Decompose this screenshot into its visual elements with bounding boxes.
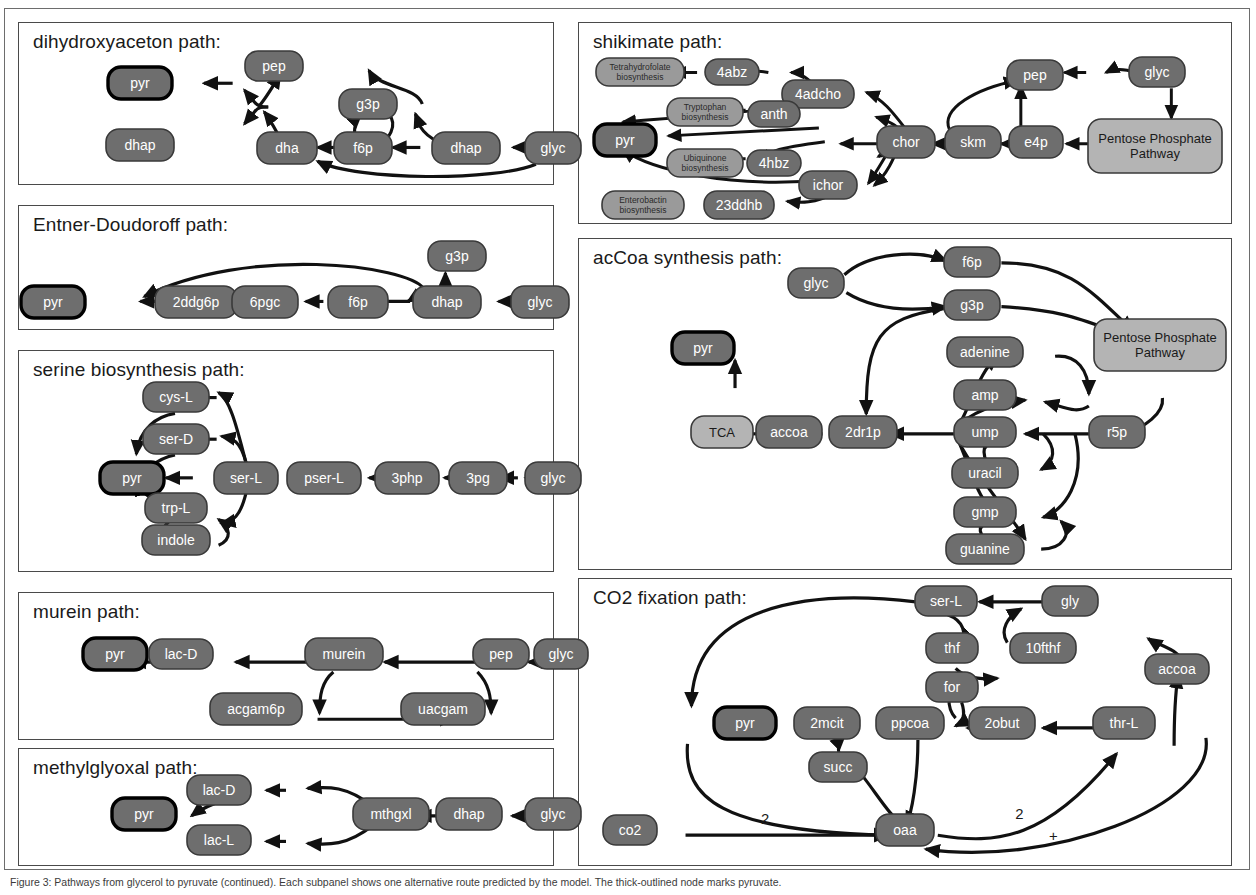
graph-accoa — [579, 239, 1231, 569]
panel-murein: murein path: — [18, 592, 554, 740]
graph-murein — [19, 593, 553, 739]
edge-label-1: 2 — [1015, 806, 1023, 822]
panel-dihydroxyaceton: dihydroxyaceton path: — [18, 22, 554, 185]
figure-page: dihydroxyaceton path: — [0, 0, 1256, 895]
graph-serine — [19, 351, 553, 571]
edge-label-2: + — [1049, 828, 1058, 844]
panel-shikimate: shikimate path: — [578, 22, 1232, 224]
graph-co2fix: 2 2 + — [579, 579, 1231, 865]
edge-label-0: 2 — [761, 811, 769, 827]
panel-co2-fixation: CO2 fixation path: — [578, 578, 1232, 866]
panel-methylglyoxal: methylglyoxal path: — [18, 748, 554, 866]
figure-caption: Figure 3: Pathways from glycerol to pyru… — [10, 876, 1250, 892]
panel-accoa-synthesis: acCoa synthesis path: — [578, 238, 1232, 570]
panel-serine-biosynthesis: serine biosynthesis path: — [18, 350, 554, 572]
graph-methylglyoxal — [19, 749, 553, 865]
graph-shikimate — [579, 23, 1231, 223]
graph-dihydroxyaceton — [19, 23, 553, 184]
graph-entner — [19, 206, 553, 329]
panel-entner-doudoroff: Entner-Doudoroff path: — [18, 205, 554, 330]
